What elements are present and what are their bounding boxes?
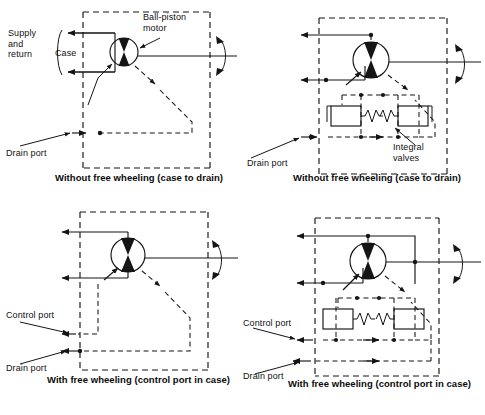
drain-port-node [255,340,431,374]
spring-loaded-check-valve-left [323,309,375,329]
valve-manifold-lines [323,296,431,342]
label-drain-port: Drain port [243,371,284,382]
diagram-top-right [243,0,485,200]
supply-return-lines [62,232,128,278]
label-control-port: Control port [6,310,54,321]
rotating-shaft [389,44,481,84]
rotating-shaft [386,244,481,284]
panel-top-right: Drain port Integral valves Without free … [243,0,485,200]
drain-port-node [251,135,317,158]
motor-leader-line [140,38,160,48]
motor-port-leaders [346,72,408,90]
caption-bottom-left: With free wheeling (control port in case… [47,374,230,385]
caption-top-left: Without free wheeling (case to drain) [55,172,223,183]
label-drain-port: Drain port [247,158,288,169]
ball-piston-motor-symbol [353,42,389,78]
caption-top-right: Without free wheeling (case to drain) [293,172,461,183]
label-integral-valves: Integral valves [393,142,424,163]
spring-loaded-check-valve-left [327,106,383,126]
panel-bottom-right: Control port Drain port With free wheeli… [243,198,485,398]
figure-sheet: Supply and return Case Ball-piston motor… [0,0,485,415]
control-port-node [253,328,313,340]
diagram-top-left [0,0,242,200]
label-drain-port: Drain port [6,148,47,159]
dashed-case-boundary [315,218,439,376]
caption-bottom-right: With free wheeling (control port in case… [288,378,471,389]
drain-port-node [20,131,102,146]
label-control-port: Control port [243,318,291,329]
drain-path [62,271,190,353]
panel-top-left: Supply and return Case Ball-piston motor… [0,0,242,200]
label-drain-port: Drain port [6,363,47,374]
spring-loaded-check-valve-right [380,106,432,126]
dashed-case-boundary [83,12,210,168]
spring-loaded-check-valve-right [376,309,424,329]
case-leader-line [88,64,112,105]
label-case: Case [55,48,76,59]
diagram-bottom-right [243,198,485,398]
rotating-shaft [145,240,238,280]
panel-bottom-left: Control port Drain port With free wheeli… [0,198,242,398]
flow-arrows [363,340,379,361]
ball-piston-motor-symbol [111,238,145,272]
label-ball-piston-motor: Ball-piston motor [143,12,186,33]
ball-piston-motor-symbol [350,243,386,279]
drain-path [100,66,192,133]
control-port-leader [20,322,68,333]
dashed-case-boundary [80,212,208,370]
ball-piston-motor-symbol [110,38,138,66]
label-supply-and-return: Supply and return [8,28,36,60]
supply-return-lines [301,33,373,82]
